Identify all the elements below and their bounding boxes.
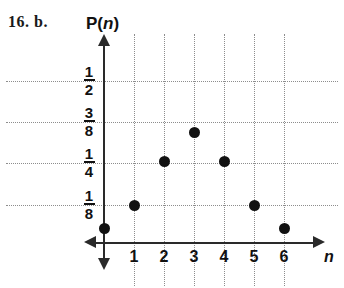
y-tick-numerator: 1 xyxy=(84,146,95,163)
x-axis-arrow-right-icon xyxy=(313,236,325,248)
x-tick-label: 1 xyxy=(126,248,142,266)
x-axis-line xyxy=(92,242,317,244)
x-tick-label: 2 xyxy=(156,248,172,266)
data-point xyxy=(249,200,260,211)
data-point xyxy=(129,200,140,211)
gridline-horizontal xyxy=(6,163,338,164)
x-tick-label: 3 xyxy=(186,248,202,266)
x-tick-label: 6 xyxy=(276,248,292,266)
y-tick-numerator: 3 xyxy=(84,105,95,122)
gridline-horizontal xyxy=(6,205,338,206)
x-tick-label: 5 xyxy=(246,248,262,266)
y-axis-arrow-down-icon xyxy=(98,258,110,270)
gridline-horizontal xyxy=(6,81,338,82)
gridline-horizontal xyxy=(6,122,338,123)
graph-figure: 16. b. P(n) n 1 2 3 8 1 4 1 8 1 2 3 4 5 … xyxy=(0,0,344,288)
y-tick-label: 1 4 xyxy=(78,146,100,179)
y-tick-label: 1 2 xyxy=(78,64,100,97)
y-tick-numerator: 1 xyxy=(84,188,95,205)
x-axis-title: n xyxy=(324,248,334,266)
y-axis-arrow-up-icon xyxy=(98,34,110,46)
y-tick-denominator: 8 xyxy=(84,122,95,138)
problem-label: 16. b. xyxy=(8,13,48,31)
y-axis-title-function: P xyxy=(86,14,97,33)
y-tick-denominator: 2 xyxy=(84,81,95,97)
data-point xyxy=(219,156,230,167)
data-point xyxy=(159,156,170,167)
x-tick-label: 4 xyxy=(216,248,232,266)
data-point xyxy=(99,223,110,234)
y-tick-label: 3 8 xyxy=(78,105,100,138)
y-axis-title: P(n) xyxy=(86,14,119,34)
y-tick-denominator: 8 xyxy=(84,205,95,221)
data-point xyxy=(189,127,200,138)
y-tick-numerator: 1 xyxy=(84,64,95,81)
data-point xyxy=(279,223,290,234)
y-tick-label: 1 8 xyxy=(78,188,100,221)
x-axis-arrow-left-icon xyxy=(84,236,96,248)
y-axis-title-variable: n xyxy=(103,14,113,33)
y-tick-denominator: 4 xyxy=(84,163,95,179)
